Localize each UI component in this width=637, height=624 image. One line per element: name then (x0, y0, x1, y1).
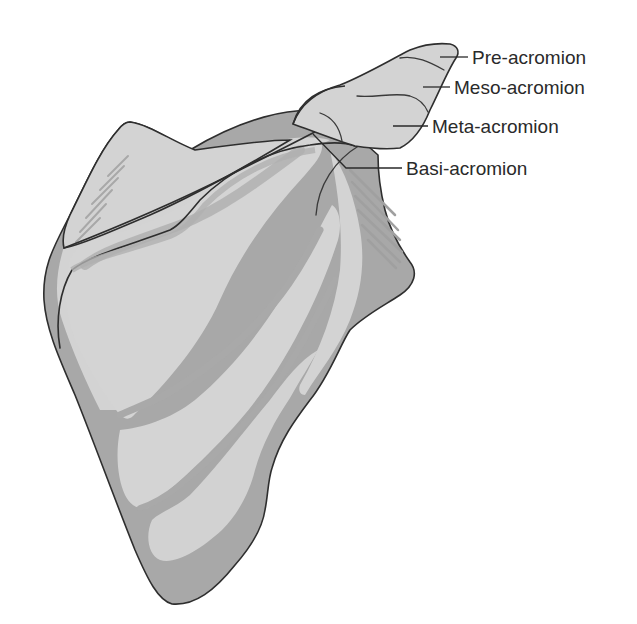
label-basi-acromion: Basi-acromion (406, 159, 527, 178)
label-meta-acromion: Meta-acromion (432, 117, 559, 136)
label-pre-acromion: Pre-acromion (472, 48, 586, 67)
label-meso-acromion: Meso-acromion (454, 78, 585, 97)
